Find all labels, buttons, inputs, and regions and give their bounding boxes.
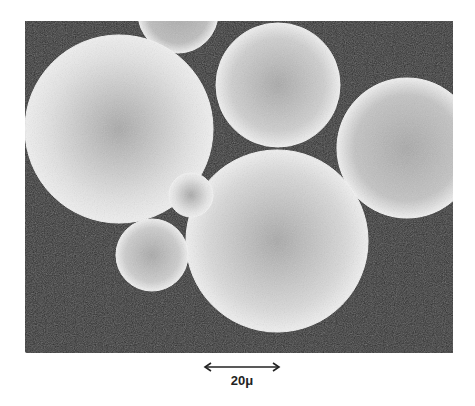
sphere-particle [216,23,340,147]
sphere-particle [116,219,188,291]
spheres-layer [25,21,453,353]
sphere-particle [169,173,213,217]
double-arrow-icon [203,360,281,374]
sphere-particle [186,150,368,332]
scale-label: 20μ [203,373,281,388]
micrograph-image [25,21,453,353]
scale-bar: 20μ [203,360,281,400]
